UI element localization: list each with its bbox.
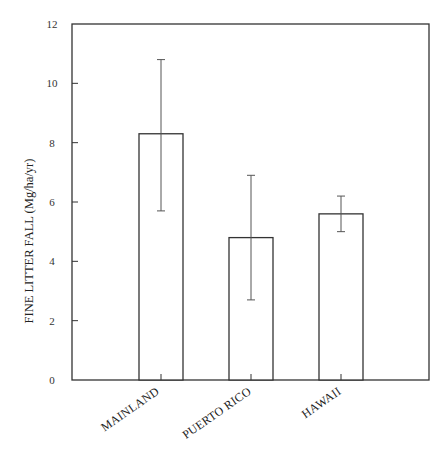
y-tick-label: 12 — [47, 18, 58, 30]
y-tick-label: 10 — [47, 77, 59, 89]
x-tick-label: HAWAII — [299, 384, 344, 421]
y-axis: 024681012 — [47, 18, 79, 386]
y-tick-label: 6 — [49, 196, 55, 208]
bar-hawaii — [319, 196, 363, 380]
bar-puerto-rico — [229, 175, 273, 380]
x-axis-labels: MAINLANDPUERTO RICOHAWAII — [98, 384, 344, 442]
y-tick-label: 8 — [49, 137, 55, 149]
bar-chart: 024681012 MAINLANDPUERTO RICOHAWAII FINE… — [0, 0, 447, 462]
y-tick-label: 2 — [49, 315, 55, 327]
bars — [139, 60, 363, 380]
y-tick-label: 0 — [49, 374, 55, 386]
y-axis-title: FINE LITTER FALL (Mg/ha/yr) — [22, 159, 36, 324]
x-tick-label: MAINLAND — [98, 384, 162, 434]
x-tick-label: PUERTO RICO — [180, 384, 254, 442]
bar-mainland — [139, 60, 183, 380]
y-tick-label: 4 — [49, 255, 55, 267]
bar — [319, 214, 363, 380]
